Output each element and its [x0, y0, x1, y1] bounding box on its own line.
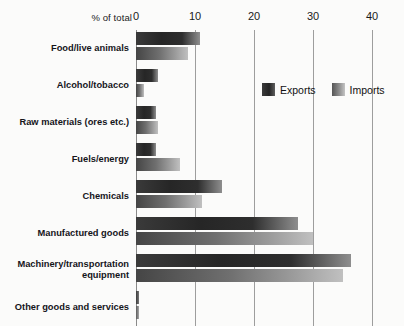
chart-row: Raw materials (ores etc.): [136, 104, 372, 141]
chart-row: Other goods and services: [136, 289, 372, 326]
gridline-40: [372, 30, 373, 326]
chart-legend: Exports Imports: [262, 83, 385, 96]
x-tick-label-10: 10: [189, 10, 201, 22]
bar-imports: [136, 306, 139, 319]
bar-imports: [136, 269, 343, 282]
category-label: Alcohol/tobacco: [0, 80, 129, 92]
chart-row: Manufactured goods: [136, 215, 372, 252]
bar-exports: [136, 32, 200, 45]
bar-exports: [136, 254, 351, 267]
bar-imports: [136, 195, 202, 208]
category-label: Fuels/energy: [0, 154, 129, 166]
chart-row: Food/live animals: [136, 30, 372, 67]
bar-imports: [136, 121, 158, 134]
bar-imports: [136, 232, 313, 245]
legend-item-imports: Imports: [332, 83, 385, 96]
x-tick-label-20: 20: [248, 10, 260, 22]
bar-exports: [136, 180, 222, 193]
legend-label-exports: Exports: [280, 84, 316, 96]
x-axis-title: % of total: [68, 12, 132, 23]
bar-imports: [136, 158, 180, 171]
bar-imports: [136, 84, 144, 97]
plot-area: 010203040Food/live animalsAlcohol/tobacc…: [136, 30, 372, 326]
category-label: Chemicals: [0, 191, 129, 203]
category-label: Food/live animals: [0, 43, 129, 55]
bar-imports: [136, 47, 188, 60]
bar-exports: [136, 69, 158, 82]
category-label: Manufactured goods: [0, 228, 129, 240]
exports-swatch-icon: [262, 83, 275, 96]
legend-label-imports: Imports: [350, 84, 385, 96]
legend-item-exports: Exports: [262, 83, 316, 96]
chart-row: Chemicals: [136, 178, 372, 215]
imports-swatch-icon: [332, 83, 345, 96]
x-tick-label-30: 30: [307, 10, 319, 22]
category-label: Machinery/transportation equipment: [0, 259, 129, 282]
bar-chart: % of total 010203040Food/live animalsAlc…: [0, 0, 404, 326]
bar-exports: [136, 143, 156, 156]
chart-row: Machinery/transportation equipment: [136, 252, 372, 289]
x-tick-label-40: 40: [366, 10, 378, 22]
category-label: Raw materials (ores etc.): [0, 117, 129, 129]
bar-exports: [136, 291, 139, 304]
x-tick-label-0: 0: [133, 10, 139, 22]
bar-exports: [136, 106, 156, 119]
chart-row: Fuels/energy: [136, 141, 372, 178]
bar-exports: [136, 217, 298, 230]
category-label: Other goods and services: [0, 302, 129, 314]
